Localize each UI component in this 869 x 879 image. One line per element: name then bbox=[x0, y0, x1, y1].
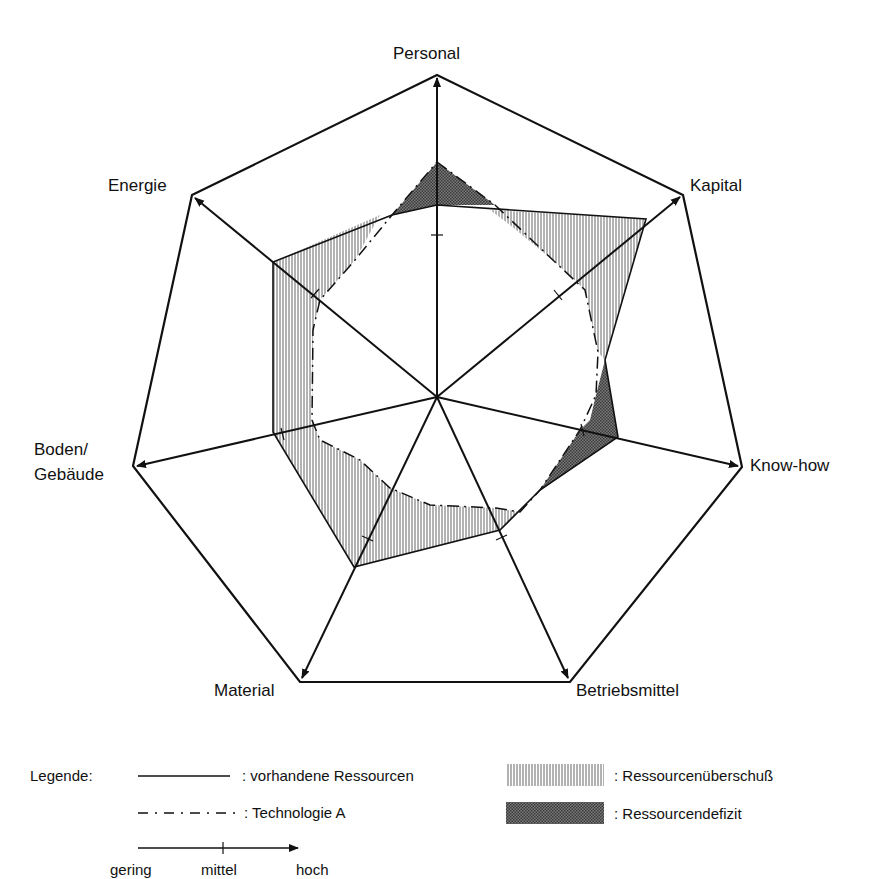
legend-deficit-label: : Ressourcendefizit bbox=[614, 805, 742, 822]
axis-label-energie: Energie bbox=[108, 176, 167, 196]
legend-solid-label: : vorhandene Ressourcen bbox=[242, 767, 414, 784]
radar-chart bbox=[0, 0, 869, 879]
legend-dashdot-label: : Technologie A bbox=[244, 804, 345, 821]
axis-label-boden: Boden/ bbox=[34, 440, 88, 460]
legend-surplus-swatch bbox=[506, 764, 604, 786]
axis-label-gebaeude: Gebäude bbox=[34, 465, 104, 485]
legend-scale-low: gering bbox=[110, 861, 152, 878]
axis-label-personal: Personal bbox=[393, 44, 460, 64]
legend-title: Legende: bbox=[30, 767, 93, 784]
legend-deficit-swatch bbox=[506, 802, 604, 824]
axis-label-knowhow: Know-how bbox=[750, 456, 829, 476]
legend-scale-high: hoch bbox=[296, 861, 329, 878]
surplus-area bbox=[273, 210, 646, 567]
legend-scale-mid: mittel bbox=[201, 861, 237, 878]
legend-surplus-label: : Ressourcenüberschuß bbox=[614, 767, 773, 784]
axis-label-kapital: Kapital bbox=[690, 176, 742, 196]
axis-label-material: Material bbox=[214, 681, 274, 701]
axis-label-betriebsmittel: Betriebsmittel bbox=[576, 681, 679, 701]
